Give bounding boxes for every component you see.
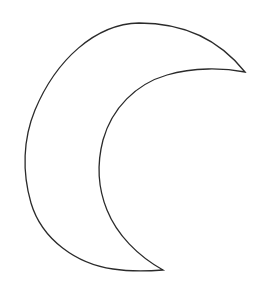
crescent-moon-icon: Crescent moon outline drawing	[0, 0, 261, 288]
image-canvas: Crescent moon outline drawing	[0, 0, 261, 288]
